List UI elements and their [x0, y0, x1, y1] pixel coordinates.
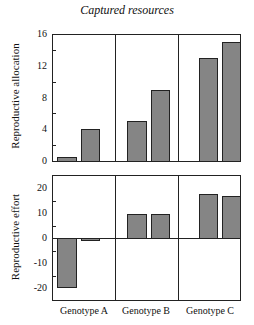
bar-genotype-a-2	[81, 129, 100, 162]
bar-genotype-b-2	[151, 214, 170, 239]
group-divider	[178, 35, 179, 161]
x-category-label: Genotype A	[52, 305, 116, 316]
top-y-tick: 8	[27, 92, 47, 103]
bar-genotype-b-1	[127, 214, 147, 239]
bar-genotype-b-2	[151, 90, 170, 162]
bar-genotype-c-2	[222, 42, 241, 162]
bottom-y-tick: 20	[27, 182, 47, 193]
x-category-label: Genotype B	[114, 305, 178, 316]
top-y-tick: 4	[27, 123, 47, 134]
bottom-y-tick: -20	[27, 282, 47, 293]
bottom-plot-area	[52, 175, 241, 301]
bar-genotype-c-1	[199, 194, 218, 239]
top-y-tick: 0	[27, 155, 47, 166]
bottom-y-tick: -10	[27, 257, 47, 268]
group-divider	[115, 35, 116, 161]
bottom-y-tick: 10	[27, 207, 47, 218]
top-plot-area	[52, 34, 241, 162]
bar-genotype-c-1	[199, 58, 218, 162]
bar-genotype-c-2	[222, 196, 241, 239]
x-category-label: Genotype C	[178, 305, 242, 316]
bar-genotype-b-1	[127, 121, 147, 162]
top-y-tick: 12	[27, 60, 47, 71]
bar-genotype-a-1	[57, 157, 77, 162]
bar-genotype-a-2	[81, 238, 100, 241]
chart-title: Captured resources	[0, 3, 254, 18]
top-y-tick: 16	[27, 28, 47, 39]
bottom-y-tick: 0	[27, 232, 47, 243]
bottom-y-axis-label: Reproductive effort	[9, 182, 21, 292]
top-y-axis-label: Reproductive allocation	[9, 26, 21, 166]
bar-genotype-a-1	[57, 238, 77, 288]
